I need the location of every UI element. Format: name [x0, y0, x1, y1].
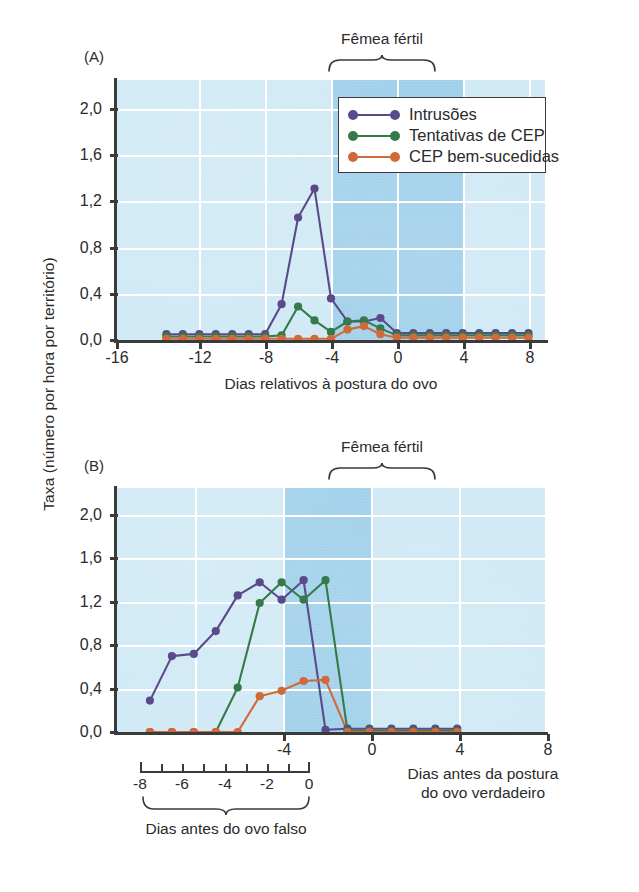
y-tick-label-a: 0,8 — [56, 239, 102, 257]
subaxis-tick — [203, 764, 205, 771]
y-tick-label-a: 0,4 — [56, 285, 102, 303]
series-point — [343, 326, 351, 334]
series-point — [168, 652, 176, 660]
subaxis-tick — [225, 764, 227, 771]
subaxis-label: -4 — [208, 775, 242, 793]
y-tick-label-b: 0,4 — [56, 680, 102, 698]
false-egg-caption: Dias antes do ovo falso — [90, 820, 362, 838]
y-tick-label-a: 2,0 — [56, 100, 102, 118]
figure-root: Taxa (número por hora por território) (A… — [0, 0, 639, 892]
x-tick-label-a: -4 — [312, 349, 352, 367]
subaxis-label: 0 — [292, 775, 326, 793]
legend-swatch-icon — [348, 150, 400, 164]
y-tick-a — [110, 200, 118, 203]
y-tick-a — [110, 293, 118, 296]
panel-a-tag: (A) — [84, 48, 104, 65]
legend-label: Intrusões — [409, 106, 477, 123]
series-point — [310, 316, 318, 324]
x-axis-title-b-line2: do ovo verdadeiro — [421, 784, 545, 801]
series-point — [278, 687, 286, 695]
y-tick-a — [110, 108, 118, 111]
series-point — [190, 650, 198, 658]
y-tick-label-b: 0,0 — [56, 723, 102, 741]
x-tick-label-b: 0 — [352, 741, 392, 759]
fertile-female-label-b: Fêmea fértil — [292, 438, 472, 456]
series-point — [343, 317, 351, 325]
x-tick-b — [371, 734, 374, 741]
series-point — [300, 677, 308, 685]
legend-label: CEP bem-sucedidas — [409, 148, 559, 165]
subaxis-tick — [308, 762, 310, 771]
y-tick-a — [110, 154, 118, 157]
y-tick-b — [110, 514, 118, 517]
panel-b: (B) Fêmea fértil — [0, 400, 639, 892]
series-point — [278, 578, 286, 586]
fertile-female-annotation-b: Fêmea fértil — [292, 438, 472, 488]
legend-item-tentativas: Tentativas de CEP — [348, 125, 535, 146]
series-point — [300, 576, 308, 584]
x-tick-a — [199, 342, 202, 349]
brace-icon-b — [327, 462, 437, 480]
series-point — [376, 314, 384, 322]
y-tick-label-a: 1,6 — [56, 146, 102, 164]
x-tick-label-a: 8 — [510, 349, 550, 367]
series-point — [294, 213, 302, 221]
y-tick-label-b: 2,0 — [56, 506, 102, 524]
panel-b-tag: (B) — [84, 457, 104, 474]
series-point — [146, 697, 154, 705]
false-egg-subaxis: -8 -6 -4 -2 0 Dias antes do ovo falso — [140, 762, 320, 822]
series-point — [300, 596, 308, 604]
subaxis-label: -6 — [165, 775, 199, 793]
series-point — [234, 591, 242, 599]
y-axis-a — [114, 78, 117, 342]
legend-label: Tentativas de CEP — [409, 127, 545, 144]
brace-icon-a — [327, 54, 437, 72]
series-point — [278, 300, 286, 308]
series-point — [212, 627, 220, 635]
x-tick-a — [463, 342, 466, 349]
brace-icon-false-egg — [140, 796, 312, 816]
subaxis-tick — [267, 764, 269, 771]
x-tick-label-b: 4 — [440, 741, 480, 759]
x-tick-b — [283, 734, 286, 741]
subaxis-tick — [161, 764, 163, 771]
x-tick-a — [529, 342, 532, 349]
y-tick-b — [110, 644, 118, 647]
y-tick-label-a: 1,2 — [56, 192, 102, 210]
y-axis-b — [114, 486, 117, 734]
fertile-female-label-a: Fêmea fértil — [292, 30, 472, 48]
y-tick-label-b: 0,8 — [56, 636, 102, 654]
y-tick-a — [110, 247, 118, 250]
series-point — [256, 599, 264, 607]
legend-item-sucedidas: CEP bem-sucedidas — [348, 146, 535, 167]
x-tick-label-a: 4 — [444, 349, 484, 367]
subaxis-tick — [140, 762, 142, 771]
x-tick-label-a: -8 — [246, 349, 286, 367]
x-tick-label-a: -16 — [97, 349, 137, 367]
legend-swatch-icon — [348, 108, 400, 122]
x-tick-label-a: -12 — [180, 349, 220, 367]
x-tick-label-b: -4 — [264, 741, 304, 759]
legend-item-intrusoes: Intrusões — [348, 104, 535, 125]
fertile-female-annotation-a: Fêmea fértil — [292, 30, 472, 80]
series-point — [278, 596, 286, 604]
series-canvas-b — [117, 488, 545, 732]
y-tick-label-b: 1,2 — [56, 593, 102, 611]
plot-area-b — [117, 488, 545, 732]
y-tick-b — [110, 731, 118, 734]
series-point — [256, 692, 264, 700]
y-tick-b — [110, 601, 118, 604]
series-point — [256, 578, 264, 586]
x-axis-title-a: Dias relativos à postura do ovo — [117, 374, 545, 393]
x-tick-label-b: 8 — [528, 741, 568, 759]
series-point — [327, 294, 335, 302]
legend-swatch-icon — [348, 129, 400, 143]
series-line — [150, 680, 457, 732]
y-tick-label-a: 0,0 — [56, 331, 102, 349]
series-point — [310, 185, 318, 193]
subaxis-label: -2 — [250, 775, 284, 793]
series-point — [321, 576, 329, 584]
x-tick-b — [459, 734, 462, 741]
series-point — [234, 683, 242, 691]
series-point — [321, 676, 329, 684]
